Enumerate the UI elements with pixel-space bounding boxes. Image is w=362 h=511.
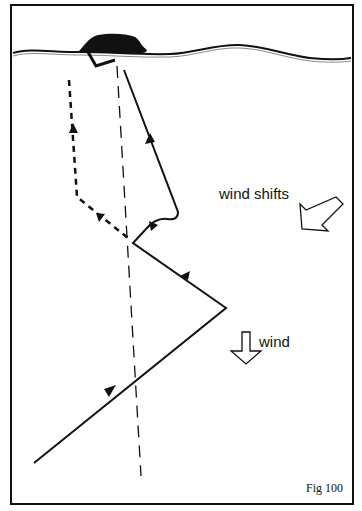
shoreline — [13, 45, 351, 62]
wind-label: wind — [258, 333, 290, 350]
course-arrow-icon — [145, 133, 155, 144]
figure-caption: Fig 100 — [306, 481, 343, 495]
course-arrow-icon — [104, 385, 116, 397]
wind-shift-arrow-icon — [300, 197, 343, 231]
rhumb-line — [117, 66, 141, 476]
island-shape — [78, 34, 147, 53]
alt-course-arrow-icon — [69, 123, 78, 133]
figure-border — [11, 5, 353, 504]
alt-course-arrow-icon — [96, 213, 105, 222]
wind-shifts-label: wind shifts — [218, 185, 289, 202]
alternative-course — [69, 80, 128, 238]
wind-arrow-icon — [231, 332, 261, 364]
sailed-course — [34, 70, 226, 463]
diagram-canvas: wind shifts wind Fig 100 — [0, 0, 362, 511]
mark-buoy — [88, 52, 115, 66]
